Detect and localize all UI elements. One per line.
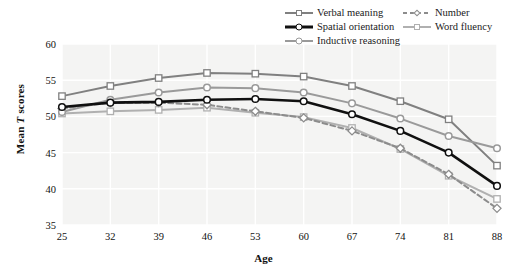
data-point-marker — [397, 128, 404, 135]
y-axis-tick-label: 40 — [20, 183, 56, 194]
legend-entry: Word fluency — [403, 20, 492, 34]
legend-label: Verbal meaning — [317, 7, 383, 19]
legend-label: Inductive reasoning — [317, 35, 400, 47]
y-axis-tick-label: 55 — [20, 75, 56, 86]
legend-column-right: NumberWord fluency — [403, 6, 492, 34]
chart-legend: Verbal meaningSpatial orientationInducti… — [285, 6, 525, 48]
legend-column-left: Verbal meaningSpatial orientationInducti… — [285, 6, 400, 48]
data-point-marker — [494, 162, 500, 168]
x-axis-tick-label: 46 — [187, 231, 227, 242]
legend-label: Spatial orientation — [317, 21, 394, 33]
data-point-marker — [349, 111, 356, 118]
legend-marker-square-icon — [296, 10, 302, 16]
data-point-marker — [300, 89, 307, 96]
legend-swatch — [403, 21, 431, 33]
data-point-marker — [300, 73, 306, 79]
legend-entry: Inductive reasoning — [285, 34, 400, 48]
data-point-marker — [494, 196, 500, 202]
y-axis-tick-label: 50 — [20, 111, 56, 122]
data-point-marker — [107, 83, 113, 89]
data-point-marker — [107, 99, 114, 106]
data-point-marker — [397, 115, 404, 122]
legend-marker-diamond-icon — [413, 9, 420, 16]
legend-swatch — [285, 35, 313, 47]
data-point-marker — [204, 70, 210, 76]
legend-marker-circle-icon — [296, 24, 303, 31]
x-axis-tick-label: 81 — [429, 231, 469, 242]
legend-marker-circle-icon — [296, 38, 303, 45]
chart-figure: Mean T scores Age 354045505560 253239465… — [0, 0, 527, 279]
data-point-marker — [204, 84, 211, 91]
y-axis-tick-label: 35 — [20, 220, 56, 231]
x-axis-tick-label: 60 — [284, 231, 324, 242]
data-point-marker — [155, 75, 161, 81]
legend-marker-square-icon — [414, 24, 420, 30]
legend-swatch — [285, 7, 313, 19]
legend-entry: Verbal meaning — [285, 6, 400, 20]
data-point-marker — [445, 133, 452, 140]
data-point-marker — [300, 98, 307, 105]
x-axis-tick-label: 88 — [477, 231, 517, 242]
x-axis-tick-label: 53 — [235, 231, 275, 242]
data-point-marker — [155, 99, 162, 106]
y-axis-tick-label: 60 — [20, 39, 56, 50]
plot-background — [62, 44, 497, 225]
data-point-marker — [349, 83, 355, 89]
x-axis-tick-label: 67 — [332, 231, 372, 242]
data-point-marker — [445, 149, 452, 156]
legend-swatch — [403, 7, 431, 19]
data-point-marker — [445, 116, 451, 122]
data-point-marker — [349, 100, 356, 107]
legend-label: Word fluency — [435, 21, 492, 33]
data-point-marker — [494, 145, 501, 152]
x-axis-title: Age — [0, 252, 527, 264]
x-axis-tick-label: 32 — [90, 231, 130, 242]
data-point-marker — [494, 183, 501, 190]
x-axis-tick-label: 25 — [42, 231, 82, 242]
data-point-marker — [59, 93, 65, 99]
data-point-marker — [155, 107, 161, 113]
legend-entry: Spatial orientation — [285, 20, 400, 34]
legend-label: Number — [435, 7, 469, 19]
legend-swatch — [285, 21, 313, 33]
data-point-marker — [107, 108, 113, 114]
data-point-marker — [252, 96, 259, 103]
data-point-marker — [397, 98, 403, 104]
x-axis-tick-label: 74 — [380, 231, 420, 242]
x-axis-tick-label: 39 — [139, 231, 179, 242]
legend-entry: Number — [403, 6, 492, 20]
data-point-marker — [252, 70, 258, 76]
data-point-marker — [59, 104, 66, 111]
data-point-marker — [155, 89, 162, 96]
y-axis-tick-label: 45 — [20, 147, 56, 158]
data-point-marker — [252, 85, 259, 92]
data-point-marker — [204, 96, 211, 103]
